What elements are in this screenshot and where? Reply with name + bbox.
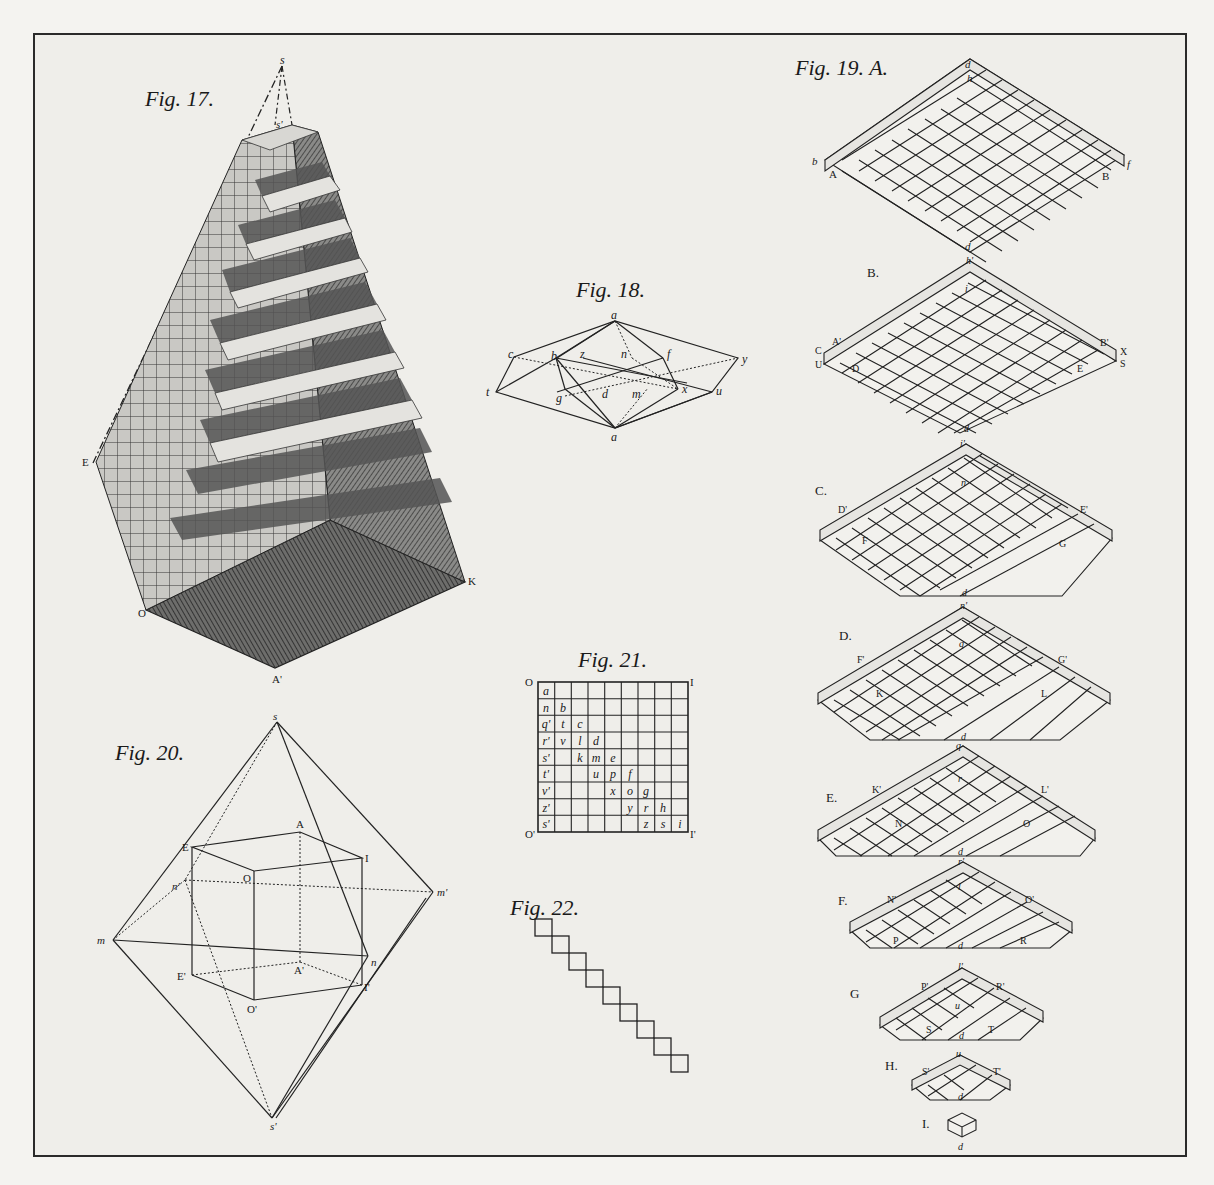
- fig19F-label-r-prime: r': [958, 856, 965, 867]
- fig21-cell: m: [592, 751, 601, 765]
- fig21-cell: q': [542, 717, 551, 731]
- fig19D-label-q: q: [959, 638, 964, 649]
- fig18-label-y: y: [741, 352, 748, 366]
- fig19H-label-T-prime: T': [993, 1066, 1001, 1077]
- fig22-title: Fig. 22.: [509, 895, 579, 920]
- fig19-grid-E: E. q r K' L' N O d: [818, 740, 1095, 857]
- fig20-label-E-prime: E': [177, 970, 186, 982]
- fig20-label-m-prime: m': [437, 886, 448, 898]
- fig19F-name: F.: [838, 893, 847, 908]
- fig19B-label-B-prime: B': [1100, 337, 1109, 348]
- fig21-cell: c: [577, 717, 583, 731]
- fig19D-label-n-prime: n': [960, 600, 968, 611]
- fig21-corner-O: O: [525, 676, 533, 688]
- fig19B-label-U: U: [815, 359, 823, 370]
- fig19E-label-O: O: [1023, 818, 1030, 829]
- fig21-lettered-grid: Fig. 21. O I O' I' a n b q' t c r' v: [525, 647, 696, 840]
- fig19A-label-A: A: [829, 168, 837, 180]
- fig19D-name: D.: [839, 628, 852, 643]
- fig19-grid-D: D. n' q F' G' K L d: [818, 600, 1110, 742]
- fig21-cell: b: [560, 701, 566, 715]
- fig21-cell: x: [609, 784, 616, 798]
- fig19A-label-B: B: [1102, 170, 1109, 182]
- fig17-label-K: K: [468, 575, 476, 587]
- fig19E-label-N: N: [895, 818, 902, 829]
- fig21-cell: t': [543, 767, 549, 781]
- fig18-octahedral-diagram: Fig. 18. a c b z n f y t g: [486, 277, 748, 444]
- fig21-corner-O-prime: O': [525, 828, 535, 840]
- fig21-cell: z': [541, 801, 550, 815]
- fig18-label-n: n: [621, 347, 627, 361]
- fig19E-label-r: r: [958, 773, 962, 784]
- fig18-label-m: m: [632, 387, 641, 401]
- fig19F-label-R: R: [1020, 935, 1027, 946]
- fig19-grid-G: G l' u P' R' S T d: [850, 961, 1043, 1041]
- fig21-cell: d: [593, 734, 600, 748]
- fig18-title: Fig. 18.: [575, 277, 645, 302]
- fig21-cell: s': [542, 751, 550, 765]
- fig21-cell: u: [593, 767, 599, 781]
- fig19G-label-S: S: [926, 1024, 932, 1035]
- fig20-label-O: O: [243, 872, 251, 884]
- fig19G-label-T: T: [988, 1024, 994, 1035]
- fig19C-label-n: n: [961, 477, 966, 488]
- fig20-label-n-prime: n': [172, 880, 181, 892]
- fig21-title: Fig. 21.: [577, 647, 647, 672]
- fig17-label-A-prime: A': [272, 673, 282, 685]
- fig22-diagonal-staircase: Fig. 22.: [509, 895, 688, 1072]
- fig21-cell: l: [578, 734, 582, 748]
- fig19E-name: E.: [826, 790, 837, 805]
- fig19G-label-u: u: [955, 1000, 960, 1011]
- plate-drawing: Fig. 17.: [0, 0, 1214, 1185]
- fig19F-label-l: l: [958, 881, 961, 892]
- fig20-label-n: n: [371, 956, 377, 968]
- fig18-label-d: d: [602, 387, 609, 401]
- fig21-cell: s': [542, 817, 550, 831]
- fig19-grid-I: I. d: [922, 1113, 976, 1152]
- fig19A-label-b: b: [812, 155, 818, 167]
- fig17-label-O: O: [138, 607, 146, 619]
- fig19H-label-u: u: [956, 1048, 961, 1059]
- fig20-label-s-prime: s': [270, 1120, 277, 1132]
- fig19H-name: H.: [885, 1058, 898, 1073]
- fig20-label-O-prime: O': [247, 1003, 257, 1015]
- fig19B-label-E: E: [1077, 363, 1083, 374]
- fig21-corner-I-prime: I': [690, 828, 696, 840]
- fig19-grid-H: H. u S' T' d: [885, 1048, 1010, 1102]
- fig21-cell: r': [542, 734, 550, 748]
- fig21-cell: a: [543, 684, 549, 698]
- fig19I-name: I.: [922, 1116, 930, 1131]
- fig19D-label-K: K: [876, 688, 884, 699]
- fig18-label-g: g: [556, 391, 562, 405]
- fig19G-name: G: [850, 986, 859, 1001]
- fig19C-label-F: F: [862, 535, 868, 546]
- fig19B-label-C: C: [815, 345, 822, 356]
- fig19B-label-D: D: [852, 363, 859, 374]
- fig19-grid-F: F. r' l N' O' P R d: [838, 856, 1072, 951]
- fig19A-label-h: h: [967, 72, 973, 84]
- fig21-cell: e: [610, 751, 616, 765]
- fig17-title: Fig. 17.: [144, 86, 214, 111]
- fig19H-label-S-prime: S': [922, 1066, 930, 1077]
- fig20-label-A-prime: A': [294, 964, 304, 976]
- fig19B-label-h-prime: h': [966, 255, 974, 266]
- fig21-cell: h: [660, 801, 666, 815]
- fig20-title: Fig. 20.: [114, 740, 184, 765]
- fig19B-label-X: X: [1120, 346, 1128, 357]
- fig17-label-s-prime: s': [276, 118, 283, 130]
- fig19-layered-grids: Fig. 19. A. b A B f d h d B. h': [794, 55, 1132, 1152]
- fig19B-name: B.: [867, 265, 879, 280]
- fig20-label-m: m: [97, 934, 105, 946]
- fig18-label-f: f: [667, 347, 672, 361]
- fig18-label-u: u: [716, 384, 722, 398]
- fig18-label-z: z: [579, 347, 585, 361]
- fig21-cell: z: [643, 817, 649, 831]
- fig19F-label-N-prime: N': [887, 894, 896, 905]
- fig19C-label-i-prime: i': [960, 438, 966, 449]
- fig19B-label-S: S: [1120, 358, 1126, 369]
- fig17-label-E: E: [82, 456, 89, 468]
- fig19G-label-R-prime: R': [996, 981, 1005, 992]
- fig20-label-I: I: [365, 852, 369, 864]
- fig19A-label-d: d: [965, 58, 971, 70]
- fig19I-label-d: d: [958, 1141, 964, 1152]
